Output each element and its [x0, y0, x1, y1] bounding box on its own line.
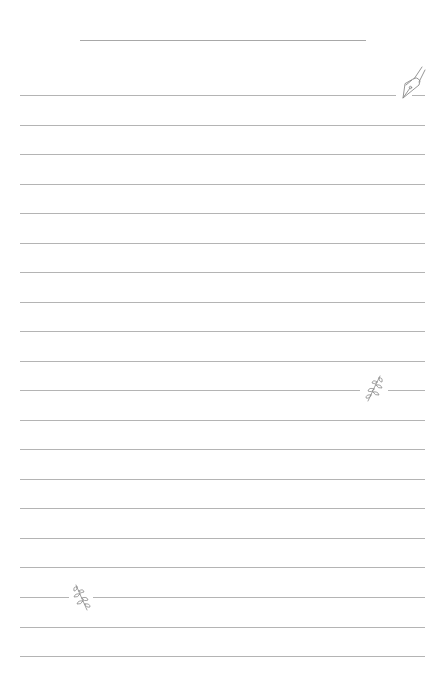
ruled-line [20, 272, 425, 273]
ruled-line [20, 302, 425, 303]
ruled-line [20, 597, 69, 598]
ruled-line [20, 361, 425, 362]
ruled-line [20, 449, 425, 450]
ruled-line [20, 125, 425, 126]
ruled-line [20, 508, 425, 509]
ruled-line [20, 154, 425, 155]
ruled-line [20, 538, 425, 539]
ruled-line [20, 567, 425, 568]
notebook-page [0, 0, 446, 686]
ruled-line [93, 597, 425, 598]
ruled-line [20, 243, 425, 244]
leaf-sprig-icon [71, 583, 93, 611]
ruled-line [20, 656, 425, 657]
ruled-line [20, 390, 360, 391]
fountain-pen-nib-icon [397, 66, 427, 102]
ruled-line [388, 390, 425, 391]
ruled-line [20, 331, 425, 332]
ruled-line [20, 627, 425, 628]
ruled-line [20, 95, 396, 96]
leaf-sprig-icon [363, 374, 385, 402]
ruled-line [20, 420, 425, 421]
ruled-line [20, 213, 425, 214]
ruled-line [20, 479, 425, 480]
title-line [80, 40, 366, 41]
ruled-line [20, 184, 425, 185]
